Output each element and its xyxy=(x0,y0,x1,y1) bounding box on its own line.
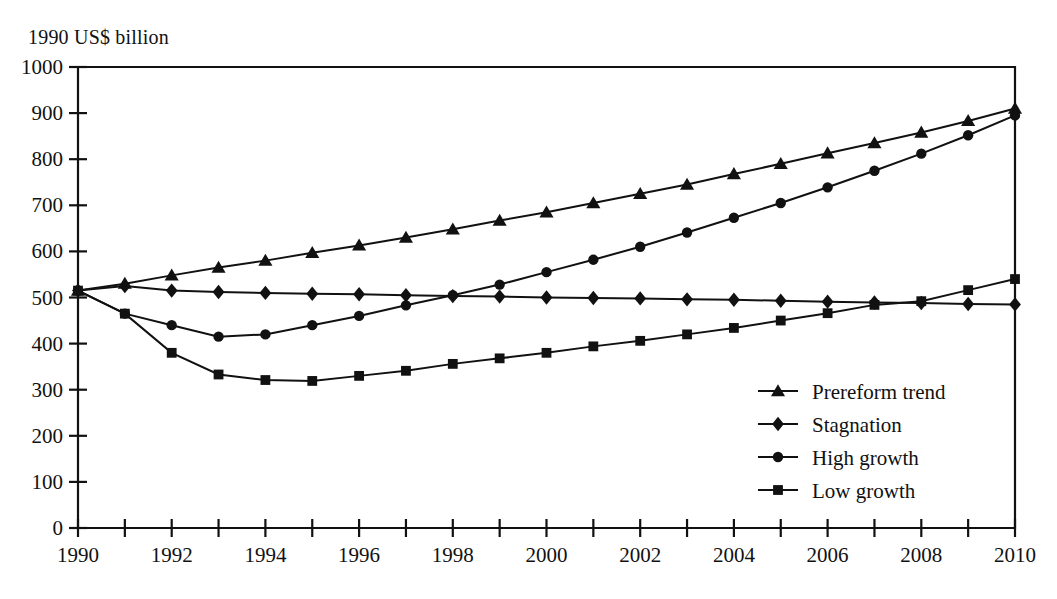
marker-circle xyxy=(213,332,223,342)
marker-circle xyxy=(307,320,317,330)
marker-diamond xyxy=(587,291,599,305)
marker-circle xyxy=(776,198,786,208)
x-tick-label-2004: 2004 xyxy=(713,543,756,567)
x-axis-ticks xyxy=(78,519,1015,537)
marker-square xyxy=(635,336,645,346)
marker-diamond xyxy=(772,417,784,431)
line-chart-canvas: 01002003004005006007008009001000 1990199… xyxy=(0,0,1057,599)
marker-diamond xyxy=(259,286,271,300)
marker-square xyxy=(729,323,739,333)
marker-square xyxy=(307,376,317,386)
y-axis-unit-label: 1990 US$ billion xyxy=(28,26,169,49)
marker-square xyxy=(870,300,880,310)
marker-circle xyxy=(822,182,832,192)
chart-legend: Prereform trendStagnationHigh growthLow … xyxy=(758,380,946,503)
marker-circle xyxy=(1010,110,1020,120)
y-tick-label-800: 800 xyxy=(32,147,64,171)
x-tick-label-2000: 2000 xyxy=(526,543,568,567)
marker-diamond xyxy=(822,294,834,308)
legend-label: Prereform trend xyxy=(812,380,946,404)
marker-square xyxy=(167,348,177,358)
y-axis-tick-labels: 01002003004005006007008009001000 xyxy=(21,55,63,540)
x-tick-label-1998: 1998 xyxy=(432,543,474,567)
marker-square xyxy=(214,370,224,380)
y-tick-label-400: 400 xyxy=(32,332,64,356)
marker-square xyxy=(401,366,411,376)
legend-entry-stagnation: Stagnation xyxy=(758,413,902,437)
marker-diamond xyxy=(213,285,225,299)
legend-entry-low-growth: Low growth xyxy=(758,479,916,503)
x-tick-label-2010: 2010 xyxy=(994,543,1036,567)
marker-diamond xyxy=(306,287,318,301)
x-tick-label-1996: 1996 xyxy=(338,543,380,567)
y-tick-label-700: 700 xyxy=(32,193,64,217)
data-series-group xyxy=(71,102,1022,386)
marker-diamond xyxy=(681,292,693,306)
marker-circle xyxy=(167,320,177,330)
legend-label: Stagnation xyxy=(812,413,902,437)
marker-circle xyxy=(916,148,926,158)
marker-diamond xyxy=(962,297,974,311)
marker-diamond xyxy=(166,283,178,297)
marker-square xyxy=(354,371,364,381)
y-tick-label-200: 200 xyxy=(32,424,64,448)
marker-circle xyxy=(401,300,411,310)
marker-square xyxy=(682,329,692,339)
x-tick-label-1990: 1990 xyxy=(57,543,99,567)
marker-square xyxy=(1010,274,1020,284)
marker-square xyxy=(823,308,833,318)
legend-entry-high-growth: High growth xyxy=(758,446,919,470)
marker-square xyxy=(776,316,786,326)
x-tick-label-2006: 2006 xyxy=(807,543,849,567)
marker-diamond xyxy=(353,287,365,301)
marker-circle xyxy=(541,267,551,277)
y-tick-label-0: 0 xyxy=(53,516,64,540)
x-tick-label-1994: 1994 xyxy=(244,543,287,567)
marker-diamond xyxy=(541,290,553,304)
marker-diamond xyxy=(634,291,646,305)
legend-entry-prereform-trend: Prereform trend xyxy=(758,380,946,404)
marker-circle xyxy=(682,227,692,237)
legend-label: High growth xyxy=(812,446,919,470)
marker-square xyxy=(448,359,458,369)
x-tick-label-2002: 2002 xyxy=(619,543,661,567)
marker-square xyxy=(773,485,783,495)
x-tick-label-2008: 2008 xyxy=(900,543,942,567)
y-tick-label-600: 600 xyxy=(32,239,64,263)
marker-circle xyxy=(963,130,973,140)
marker-circle xyxy=(354,311,364,321)
marker-square xyxy=(495,353,505,363)
series-prereform-trend xyxy=(71,102,1022,296)
y-tick-label-900: 900 xyxy=(32,101,64,125)
marker-circle xyxy=(773,452,783,462)
marker-diamond xyxy=(775,294,787,308)
marker-square xyxy=(963,285,973,295)
marker-circle xyxy=(494,279,504,289)
y-tick-label-300: 300 xyxy=(32,378,64,402)
marker-square xyxy=(261,375,271,385)
x-tick-label-1992: 1992 xyxy=(151,543,193,567)
marker-diamond xyxy=(119,279,131,293)
legend-label: Low growth xyxy=(812,479,916,503)
marker-circle xyxy=(588,255,598,265)
marker-square xyxy=(120,309,130,319)
marker-diamond xyxy=(494,289,506,303)
marker-circle xyxy=(448,290,458,300)
y-tick-label-500: 500 xyxy=(32,286,64,310)
marker-square xyxy=(73,286,83,296)
marker-square xyxy=(588,341,598,351)
marker-square xyxy=(542,348,552,358)
marker-circle xyxy=(729,213,739,223)
y-tick-label-1000: 1000 xyxy=(21,55,63,79)
marker-circle xyxy=(260,329,270,339)
marker-diamond xyxy=(1009,297,1021,311)
marker-square xyxy=(916,296,926,306)
y-tick-label-100: 100 xyxy=(32,470,64,494)
marker-diamond xyxy=(728,293,740,307)
chart-figure: 1990 US$ billion 01002003004005006007008… xyxy=(0,0,1057,599)
marker-circle xyxy=(635,242,645,252)
marker-circle xyxy=(869,166,879,176)
x-axis-tick-labels: 1990199219941996199820002002200420062008… xyxy=(57,543,1036,567)
